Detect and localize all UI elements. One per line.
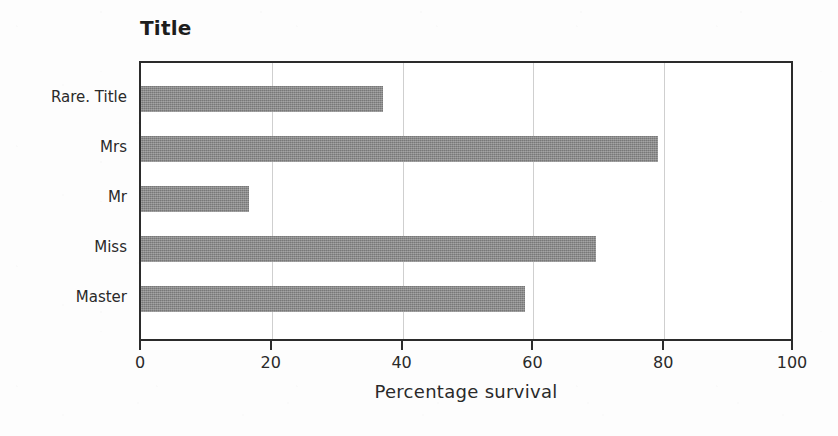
x-tick-mark-20 (270, 341, 272, 350)
x-tick-label-60: 60 (522, 353, 542, 372)
gridline-80 (664, 63, 665, 339)
x-tick-label-100: 100 (777, 353, 808, 372)
x-tick-label-40: 40 (391, 353, 411, 372)
x-axis-title: Percentage survival (139, 381, 793, 402)
y-label-master: Master (76, 288, 127, 306)
x-tick-mark-40 (401, 341, 403, 350)
y-label-rare-title: Rare. Title (51, 88, 127, 106)
x-tick-mark-60 (531, 341, 533, 350)
x-tick-label-80: 80 (653, 353, 673, 372)
gridline-60 (533, 63, 534, 339)
y-label-mrs: Mrs (100, 138, 127, 156)
x-tick-mark-100 (791, 341, 793, 350)
x-tick-label-0: 0 (135, 353, 145, 372)
x-tick-mark-0 (139, 341, 141, 350)
bar-master (141, 286, 525, 312)
x-tick-mark-80 (662, 341, 664, 350)
y-label-mr: Mr (108, 188, 127, 206)
bar-mrs (141, 136, 658, 162)
chart-page: Title Rare. Title Mrs Mr Miss Master 0 2… (0, 0, 838, 436)
bar-rare-title (141, 86, 383, 112)
chart-title: Title (140, 16, 191, 40)
y-label-miss: Miss (94, 238, 127, 256)
x-tick-label-20: 20 (261, 353, 281, 372)
bar-miss (141, 236, 596, 262)
bar-mr (141, 186, 249, 212)
x-axis-ticks: 0 20 40 60 80 100 (139, 341, 793, 381)
y-axis-labels: Rare. Title Mrs Mr Miss Master (0, 61, 127, 341)
plot-area (139, 61, 793, 341)
